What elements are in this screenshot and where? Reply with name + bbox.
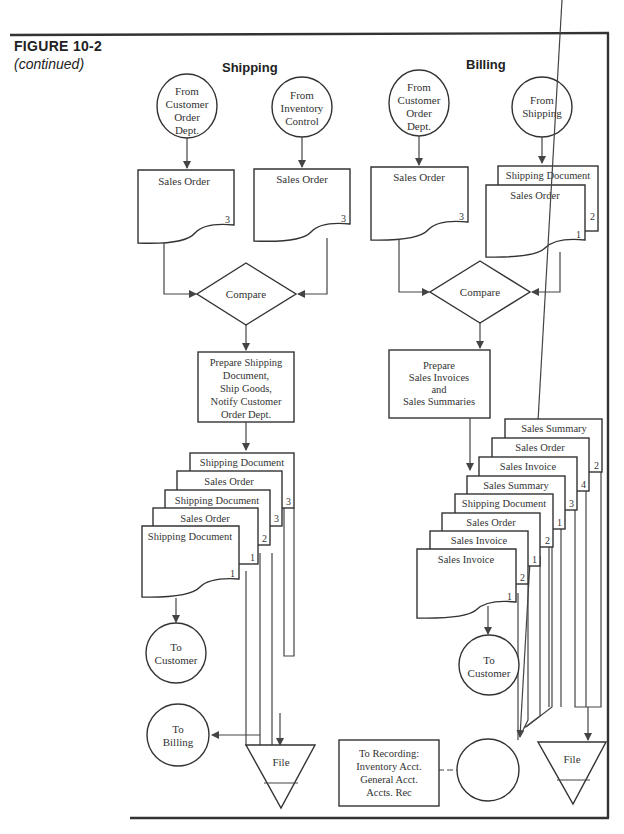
process-prepare-invoices: Prepare Sales Invoices and Sales Summari… — [389, 350, 490, 418]
document-label: Shipping Document — [200, 457, 284, 468]
connector-to-customer-shipping: To Customer — [146, 623, 206, 683]
document-sales-order-shipping-b: Sales Order 3 — [254, 169, 350, 241]
copy-number: 1 — [532, 554, 537, 565]
connector-text: Customer — [468, 667, 511, 679]
document-label: Sales Invoice — [451, 535, 508, 546]
annotation-text: To Recording: — [359, 748, 419, 759]
process-text: and — [431, 384, 447, 395]
document-pair-billing: Shipping Document 2 Sales Order 1 — [486, 166, 598, 257]
connector-text: From — [175, 85, 199, 97]
document-label: Sales Summary — [483, 480, 549, 491]
connector-text: To — [170, 641, 182, 653]
process-text: Document, — [223, 370, 269, 381]
file-label: File — [563, 753, 580, 765]
decision-label: Compare — [226, 288, 266, 300]
copy-number: 2 — [262, 533, 267, 544]
connector-text: From — [530, 94, 554, 106]
connector-from-customer-order-billing: From Customer Order Dept. — [389, 70, 449, 136]
copy-number: 4 — [581, 479, 586, 490]
process-text: Sales Summaries — [403, 396, 475, 407]
document-label: Sales Order — [158, 175, 210, 187]
connector-text: Customer — [398, 94, 441, 106]
connector-text: To — [483, 654, 495, 666]
file-label: File — [272, 756, 289, 768]
copy-number: 3 — [286, 496, 291, 507]
process-text: Notify Customer — [211, 396, 282, 407]
flow-arrow — [164, 243, 196, 294]
file-storage-billing: File — [538, 742, 606, 804]
annotation-text: Accts. Rec — [366, 787, 412, 798]
connector-from-shipping: From Shipping — [512, 77, 572, 137]
copy-number: 1 — [507, 591, 512, 602]
copy-number: 1 — [576, 229, 581, 240]
copy-number: 1 — [250, 552, 255, 563]
document-label: Shipping Document — [148, 531, 232, 542]
connector-text: From — [290, 89, 314, 101]
document-stack-billing: Sales Summary 2 Sales Order 4 Sales Invo… — [417, 419, 602, 618]
flowchart-canvas: From Customer Order Dept. From Inventory… — [0, 0, 624, 834]
copy-number: 2 — [545, 535, 550, 546]
document-label: Sales Order — [180, 513, 230, 524]
document-stack-shipping: Shipping Document 3 Sales Order 3 Shippi… — [142, 453, 294, 597]
copy-number: 3 — [274, 513, 279, 524]
connector-text: Billing — [163, 736, 194, 748]
flow-arrow — [298, 238, 327, 294]
document-label: Sales Order — [393, 171, 445, 183]
document-label: Shipping Document — [175, 495, 259, 506]
stack-doc: Shipping Document 1 — [142, 526, 239, 597]
annotation-text: Inventory Acct. — [356, 761, 421, 772]
document-label: Sales Invoice — [500, 461, 557, 472]
connector-text: Dept. — [407, 120, 431, 132]
copy-number: 1 — [557, 517, 562, 528]
connector-text: Order — [174, 111, 200, 123]
connector-text: Order — [406, 107, 432, 119]
document-label: Sales Order — [510, 190, 560, 201]
document-label: Sales Order — [466, 517, 516, 528]
connector-text: Customer — [155, 654, 198, 666]
copy-number: 2 — [520, 572, 525, 583]
document-label: Sales Order — [276, 173, 328, 185]
connector-to-customer-billing: To Customer — [459, 635, 519, 695]
document-sales-order-billing: Sales Order 3 — [371, 167, 468, 240]
document-label: Sales Invoice — [438, 554, 495, 565]
document-label: Shipping Document — [506, 170, 590, 181]
connector-text: Customer — [166, 98, 209, 110]
copy-number: 3 — [225, 214, 230, 225]
decision-compare-shipping: Compare — [197, 263, 296, 325]
document-label: Sales Summary — [521, 423, 587, 434]
connector-text: To — [172, 723, 184, 735]
annotation-text: General Acct. — [360, 774, 418, 785]
process-text: Prepare Shipping — [210, 357, 283, 368]
copy-number: 1 — [230, 568, 235, 579]
copy-number: 2 — [594, 460, 599, 471]
copy-number: 3 — [459, 211, 464, 222]
document-label: Shipping Document — [462, 498, 546, 509]
copy-number: 3 — [341, 213, 346, 224]
process-text: Prepare — [423, 360, 455, 371]
copy-number: 3 — [569, 498, 574, 509]
connector-text: Control — [285, 115, 319, 127]
connector-text: From — [407, 81, 431, 93]
document-label: Sales Order — [515, 442, 565, 453]
process-prepare-shipping: Prepare Shipping Document, Ship Goods, N… — [198, 352, 294, 422]
stack-doc: Sales Invoice 1 — [417, 549, 516, 618]
connector-from-customer-order-shipping: From Customer Order Dept. — [157, 74, 217, 138]
decision-label: Compare — [460, 286, 500, 298]
document-sales-order-shipping-a: Sales Order 3 — [138, 170, 234, 243]
connector-recording — [457, 739, 519, 801]
flow-arrow — [399, 240, 429, 292]
process-text: Sales Invoices — [409, 372, 469, 383]
connector-text: Inventory — [281, 102, 324, 114]
connector-to-billing: To Billing — [147, 704, 209, 766]
file-storage-shipping: File — [246, 745, 315, 808]
process-text: Ship Goods, — [220, 383, 272, 394]
connector-from-inventory-control: From Inventory Control — [272, 77, 332, 137]
annotation-to-recording: To Recording: Inventory Acct. General Ac… — [339, 740, 439, 806]
document-label: Sales Order — [204, 476, 254, 487]
connector-text: Dept. — [175, 124, 199, 136]
copy-number: 2 — [590, 211, 595, 222]
stack-doc: Sales Order 1 — [486, 185, 585, 257]
process-text: Order Dept. — [221, 409, 271, 420]
decision-compare-billing: Compare — [430, 261, 530, 323]
